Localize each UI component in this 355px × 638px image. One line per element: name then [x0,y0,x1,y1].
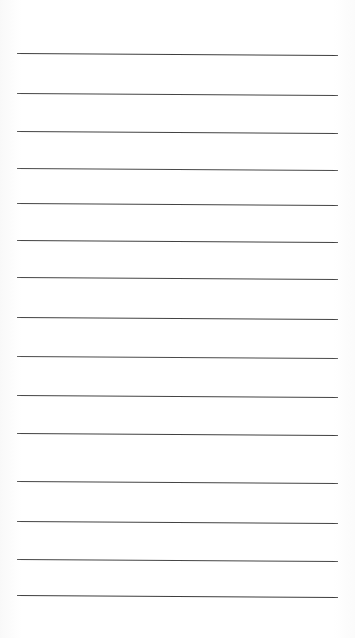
rule-line-7 [17,277,338,280]
rule-line-9 [17,356,338,359]
rule-line-15 [17,595,338,598]
lined-paper-sheet [0,0,355,638]
rule-line-11 [17,433,338,436]
rule-line-10 [17,395,338,398]
rule-line-13 [17,521,338,524]
paper-texture-overlay [0,0,355,638]
rule-line-1 [17,53,338,56]
rule-line-12 [17,481,338,484]
rule-line-3 [17,131,338,134]
rule-line-8 [17,317,338,320]
rule-line-2 [17,93,338,96]
rule-line-5 [17,203,338,206]
rule-line-14 [17,559,338,562]
rule-line-4 [17,168,338,171]
rule-line-6 [17,240,338,243]
